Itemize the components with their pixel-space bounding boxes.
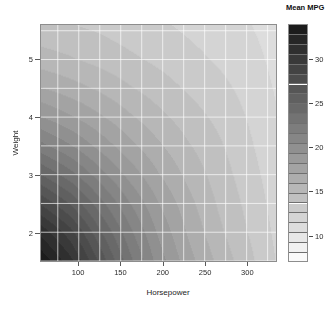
x-tick-mark [247,262,248,266]
legend-tick-mark [309,59,313,60]
legend-band [289,154,307,164]
legend-tick-label: 25 [315,99,323,108]
legend-band [289,124,307,134]
x-tick-mark [205,262,206,266]
y-tick-label: 5 [20,54,33,63]
legend-band [289,65,307,75]
legend-band [289,184,307,194]
x-tick-label: 250 [199,268,212,277]
legend-tick-mark [309,236,313,237]
x-tick-label: 300 [241,268,254,277]
legend-band [289,104,307,114]
legend-band [289,35,307,45]
legend-band [289,213,307,223]
y-tick-mark [35,175,40,176]
legend-band [289,75,307,85]
x-tick-label: 100 [72,268,85,277]
legend-band [289,164,307,174]
legend-colorbar: 3025201510 [288,24,308,262]
x-axis-title: Horsepower [0,288,336,297]
x-tick-label: 150 [114,268,127,277]
legend-tick-mark [309,147,313,148]
legend-tick-label: 15 [315,187,323,196]
legend-band [289,114,307,124]
contour-heatmap [41,25,276,261]
contour-figure: 100150200250300 2345 Horsepower Weight M… [0,0,336,309]
legend-band [289,55,307,65]
legend-band [289,144,307,154]
legend-band [289,45,307,55]
x-tick-mark [120,262,121,266]
legend-band [289,25,307,35]
legend-band [289,243,307,253]
legend-tick-label: 10 [315,231,323,240]
legend-tick-mark [309,191,313,192]
legend-tick-label: 30 [315,55,323,64]
y-tick-mark [35,59,40,60]
legend-band [289,174,307,184]
y-tick-label: 2 [20,228,33,237]
y-tick-mark [35,233,40,234]
legend-band [289,204,307,214]
x-tick-mark [163,262,164,266]
y-tick-label: 3 [20,170,33,179]
legend-band [289,194,307,204]
legend-band [289,253,307,262]
legend-band [289,233,307,243]
legend-title: Mean MPG [286,3,324,12]
legend-band [289,85,307,95]
legend-tick-label: 20 [315,143,323,152]
y-tick-mark [35,117,40,118]
x-tick-label: 200 [156,268,169,277]
plot-panel [40,24,277,262]
legend-band [289,134,307,144]
legend-tick-mark [309,103,313,104]
legend-bar [288,24,308,262]
y-axis-title: Weight [11,131,20,156]
x-tick-mark [78,262,79,266]
legend-band [289,94,307,104]
y-tick-label: 4 [20,112,33,121]
legend-band [289,223,307,233]
